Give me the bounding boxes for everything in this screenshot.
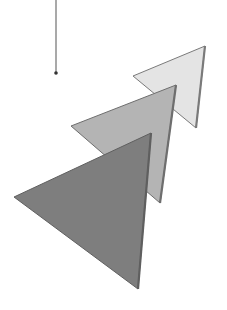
stacked-arrow-triangles-diagram: [0, 0, 227, 310]
dark-triangle: [14, 133, 151, 289]
triangle-stack: [14, 46, 205, 289]
hanging-dot: [54, 71, 58, 75]
